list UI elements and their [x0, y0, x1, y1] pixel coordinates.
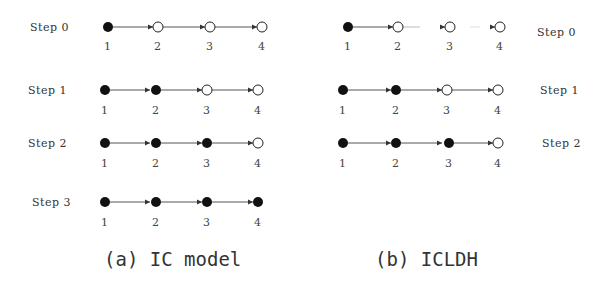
node-1-active [338, 138, 348, 148]
node-number: 3 [203, 216, 210, 229]
node-2-active [151, 138, 161, 148]
node-number: 4 [494, 157, 501, 170]
node-number: 1 [104, 40, 111, 53]
node-3-inactive [202, 85, 212, 95]
node-number: 1 [339, 104, 346, 117]
node-2-inactive [393, 22, 403, 32]
step-label: Step 1 [540, 84, 579, 97]
panel-a-step-1-row: Step 1 1 2 3 4 [28, 84, 263, 117]
node-4-inactive [493, 85, 503, 95]
panel-a-step-0-row: Step 0 1 2 3 4 [30, 21, 267, 53]
step-label: Step 0 [537, 26, 576, 39]
node-number: 1 [101, 157, 108, 170]
step-label: Step 3 [32, 196, 71, 209]
caption-a: (a) IC model [104, 248, 241, 270]
node-number: 4 [496, 40, 503, 53]
node-2-active [151, 85, 161, 95]
node-3-inactive [442, 85, 452, 95]
caption-b: (b) ICLDH [375, 248, 478, 270]
node-number: 3 [203, 157, 210, 170]
node-3-active [444, 138, 454, 148]
node-1-active [100, 197, 110, 207]
node-1-active [338, 85, 348, 95]
panel-b-step-2-row: 1 2 3 4 Step 2 [338, 137, 581, 170]
node-4-inactive [493, 138, 503, 148]
node-number: 3 [443, 104, 450, 117]
node-4-inactive [253, 138, 263, 148]
node-3-inactive [205, 22, 215, 32]
node-number: 1 [101, 216, 108, 229]
node-number: 2 [154, 40, 161, 53]
panel-b-step-1-row: 1 2 3 4 Step 1 [338, 84, 579, 117]
node-number: 2 [152, 104, 159, 117]
node-number: 2 [392, 104, 399, 117]
node-number: 3 [206, 40, 213, 53]
node-3-active [202, 197, 212, 207]
node-1-active [103, 22, 113, 32]
node-number: 3 [446, 40, 453, 53]
node-number: 2 [152, 157, 159, 170]
node-1-active [100, 138, 110, 148]
node-1-active [343, 22, 353, 32]
node-number: 1 [339, 157, 346, 170]
node-4-active [253, 197, 263, 207]
node-number: 4 [254, 157, 261, 170]
node-number: 2 [394, 40, 401, 53]
panel-a-step-2-row: Step 2 1 2 3 4 [28, 137, 263, 170]
node-number: 1 [101, 104, 108, 117]
node-4-inactive [495, 22, 505, 32]
node-3-active [202, 138, 212, 148]
node-2-active [391, 85, 401, 95]
node-number: 4 [254, 104, 261, 117]
step-label: Step 1 [28, 84, 67, 97]
panel-b-step-0-row: 1 2 3 4 Step 0 [343, 22, 576, 53]
diffusion-diagram: Step 0 1 2 3 4 Step 1 1 2 3 4 [0, 0, 607, 284]
node-4-inactive [253, 85, 263, 95]
step-label: Step 2 [28, 137, 67, 150]
node-number: 2 [392, 157, 399, 170]
node-2-active [391, 138, 401, 148]
node-number: 1 [344, 40, 351, 53]
step-label: Step 0 [30, 21, 69, 34]
node-number: 3 [203, 104, 210, 117]
node-2-active [151, 197, 161, 207]
step-label: Step 2 [542, 137, 581, 150]
panel-b-icldh: 1 2 3 4 Step 0 1 2 3 4 Step 1 [338, 22, 581, 270]
panel-a-step-3-row: Step 3 1 2 3 4 [32, 196, 263, 229]
node-2-inactive [153, 22, 163, 32]
node-4-inactive [257, 22, 267, 32]
node-3-inactive [445, 22, 455, 32]
node-number: 4 [494, 104, 501, 117]
node-number: 3 [445, 157, 452, 170]
node-number: 4 [258, 40, 265, 53]
node-number: 2 [152, 216, 159, 229]
node-number: 4 [254, 216, 261, 229]
panel-a-ic-model: Step 0 1 2 3 4 Step 1 1 2 3 4 [28, 21, 267, 270]
node-1-active [100, 85, 110, 95]
